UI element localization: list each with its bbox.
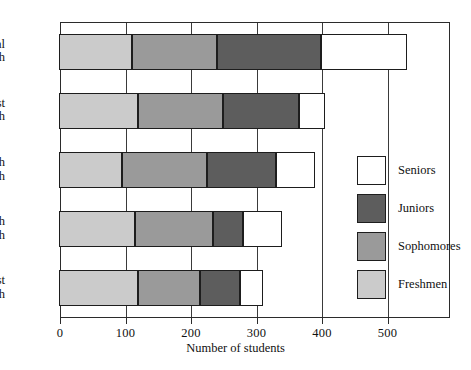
bar-segment-seniors xyxy=(299,93,325,129)
x-tick-mark-400 xyxy=(322,318,323,324)
legend-swatch-freshmen xyxy=(357,270,386,299)
bar-segment-sophomores xyxy=(138,93,223,129)
legend-label: Juniors xyxy=(398,201,434,216)
x-tick-label-0: 0 xyxy=(57,326,63,341)
x-tick-label-400: 400 xyxy=(312,326,331,341)
x-tick-mark-300 xyxy=(257,318,258,324)
bar-row xyxy=(0,93,471,129)
bar-segment-seniors xyxy=(243,211,282,247)
x-tick-mark-100 xyxy=(126,318,127,324)
bar-segment-juniors xyxy=(213,211,242,247)
bar-segment-sophomores xyxy=(135,211,214,247)
x-tick-label-200: 200 xyxy=(181,326,200,341)
bar-segment-freshmen xyxy=(59,93,138,129)
bar-segment-freshmen xyxy=(59,34,131,70)
bar-segment-juniors xyxy=(207,152,276,188)
bar-segment-sophomores xyxy=(122,152,207,188)
legend-label: Seniors xyxy=(398,163,436,178)
x-tick-mark-200 xyxy=(191,318,192,324)
bar-segment-seniors xyxy=(240,270,263,306)
bar-segment-juniors xyxy=(223,93,298,129)
legend: SeniorsJuniorsSophomoresFreshmen xyxy=(357,156,467,308)
legend-swatch-juniors xyxy=(357,194,386,223)
x-axis-title: Number of students xyxy=(0,341,471,356)
x-tick-mark-0 xyxy=(60,318,61,324)
x-tick-mark-500 xyxy=(388,318,389,324)
legend-label: Freshmen xyxy=(398,277,447,292)
bar-segment-sophomores xyxy=(138,270,200,306)
legend-label: Sophomores xyxy=(398,239,461,254)
bar-segment-juniors xyxy=(217,34,322,70)
stacked-bar-chart: 0100200300400500CentralHighEastHighSouth… xyxy=(0,0,471,370)
bar-segment-freshmen xyxy=(59,152,121,188)
bar-segment-seniors xyxy=(321,34,406,70)
x-tick-label-500: 500 xyxy=(378,326,397,341)
x-tick-label-100: 100 xyxy=(116,326,135,341)
bar-segment-freshmen xyxy=(59,211,134,247)
bar-segment-sophomores xyxy=(132,34,217,70)
x-tick-label-300: 300 xyxy=(247,326,266,341)
bar-segment-juniors xyxy=(200,270,239,306)
legend-swatch-seniors xyxy=(357,156,386,185)
bar-row xyxy=(0,34,471,70)
bar-segment-freshmen xyxy=(59,270,138,306)
legend-swatch-sophomores xyxy=(357,232,386,261)
bar-segment-seniors xyxy=(276,152,315,188)
